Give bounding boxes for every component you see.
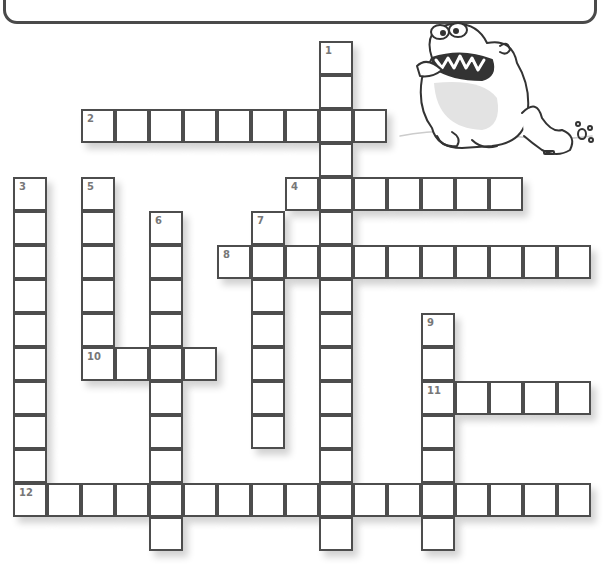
- crossword-cell[interactable]: [13, 313, 47, 347]
- crossword-cell[interactable]: [353, 109, 387, 143]
- crossword-cell[interactable]: [183, 483, 217, 517]
- crossword-cell[interactable]: [285, 483, 319, 517]
- crossword-cell[interactable]: [251, 245, 285, 279]
- crossword-cell[interactable]: [81, 483, 115, 517]
- crossword-cell[interactable]: [523, 483, 557, 517]
- crossword-cell[interactable]: [353, 483, 387, 517]
- crossword-cell[interactable]: [251, 347, 285, 381]
- crossword-cell[interactable]: [149, 245, 183, 279]
- crossword-cell[interactable]: [81, 245, 115, 279]
- crossword-cell[interactable]: [115, 483, 149, 517]
- crossword-cell[interactable]: [13, 245, 47, 279]
- crossword-cell[interactable]: [319, 347, 353, 381]
- crossword-cell[interactable]: [455, 245, 489, 279]
- crossword-cell[interactable]: [81, 211, 115, 245]
- crossword-cell[interactable]: [13, 211, 47, 245]
- crossword-cell[interactable]: [319, 177, 353, 211]
- crossword-cell[interactable]: [353, 177, 387, 211]
- crossword-cell[interactable]: 6: [149, 211, 183, 245]
- crossword-cell[interactable]: [319, 245, 353, 279]
- crossword-cell[interactable]: [387, 245, 421, 279]
- crossword-cell[interactable]: [285, 245, 319, 279]
- crossword-cell[interactable]: [319, 211, 353, 245]
- crossword-cell[interactable]: 10: [81, 347, 115, 381]
- crossword-cell[interactable]: [13, 381, 47, 415]
- crossword-cell[interactable]: [319, 279, 353, 313]
- crossword-cell[interactable]: [251, 313, 285, 347]
- crossword-cell[interactable]: [421, 177, 455, 211]
- crossword-cell[interactable]: [47, 483, 81, 517]
- crossword-cell[interactable]: [149, 381, 183, 415]
- crossword-cell[interactable]: [285, 109, 319, 143]
- crossword-cell[interactable]: [319, 517, 353, 551]
- crossword-cell[interactable]: [489, 245, 523, 279]
- crossword-cell[interactable]: [251, 279, 285, 313]
- crossword-cell[interactable]: [557, 483, 591, 517]
- crossword-cell[interactable]: [489, 381, 523, 415]
- crossword-cell[interactable]: [217, 109, 251, 143]
- crossword-cell[interactable]: [319, 449, 353, 483]
- crossword-cell[interactable]: [523, 381, 557, 415]
- crossword-cell[interactable]: [115, 109, 149, 143]
- crossword-cell[interactable]: [149, 517, 183, 551]
- crossword-cell[interactable]: 11: [421, 381, 455, 415]
- crossword-cell[interactable]: [13, 415, 47, 449]
- crossword-cell[interactable]: [421, 483, 455, 517]
- crossword-cell[interactable]: [319, 313, 353, 347]
- crossword-cell[interactable]: [319, 109, 353, 143]
- crossword-cell[interactable]: [149, 109, 183, 143]
- crossword-cell[interactable]: 12: [13, 483, 47, 517]
- crossword-cell[interactable]: [455, 177, 489, 211]
- crossword-cell[interactable]: [319, 415, 353, 449]
- crossword-cell[interactable]: [489, 177, 523, 211]
- crossword-cell[interactable]: 3: [13, 177, 47, 211]
- clue-number: 8: [223, 249, 230, 260]
- crossword-cell[interactable]: 9: [421, 313, 455, 347]
- crossword-cell[interactable]: [421, 245, 455, 279]
- crossword-cell[interactable]: [149, 483, 183, 517]
- crossword-cell[interactable]: [557, 245, 591, 279]
- crossword-cell[interactable]: [319, 483, 353, 517]
- clue-number: 2: [87, 113, 94, 124]
- crossword-cell[interactable]: [251, 415, 285, 449]
- crossword-cell[interactable]: [489, 483, 523, 517]
- crossword-cell[interactable]: [149, 415, 183, 449]
- crossword-cell[interactable]: [251, 483, 285, 517]
- crossword-cell[interactable]: [149, 279, 183, 313]
- crossword-cell[interactable]: [455, 483, 489, 517]
- crossword-cell[interactable]: [387, 177, 421, 211]
- crossword-cell[interactable]: [183, 347, 217, 381]
- crossword-cell[interactable]: [523, 245, 557, 279]
- crossword-cell[interactable]: [115, 347, 149, 381]
- crossword-cell[interactable]: [81, 279, 115, 313]
- crossword-cell[interactable]: [387, 483, 421, 517]
- crossword-cell[interactable]: [557, 381, 591, 415]
- crossword-cell[interactable]: [319, 381, 353, 415]
- crossword-cell[interactable]: [13, 449, 47, 483]
- crossword-cell[interactable]: [149, 347, 183, 381]
- crossword-cell[interactable]: [13, 347, 47, 381]
- crossword-cell[interactable]: [455, 381, 489, 415]
- crossword-cell[interactable]: [421, 449, 455, 483]
- crossword-cell[interactable]: [81, 313, 115, 347]
- crossword-cell[interactable]: 1: [319, 41, 353, 75]
- crossword-cell[interactable]: [421, 347, 455, 381]
- crossword-cell[interactable]: [421, 415, 455, 449]
- crossword-cell[interactable]: [251, 109, 285, 143]
- crossword-cell[interactable]: 2: [81, 109, 115, 143]
- crossword-cell[interactable]: [353, 245, 387, 279]
- crossword-cell[interactable]: [13, 279, 47, 313]
- crossword-cell[interactable]: [149, 449, 183, 483]
- crossword-cell[interactable]: 5: [81, 177, 115, 211]
- crossword-cell[interactable]: [251, 381, 285, 415]
- crossword-cell[interactable]: 7: [251, 211, 285, 245]
- crossword-cell[interactable]: [217, 483, 251, 517]
- crossword-cell[interactable]: [319, 75, 353, 109]
- crossword-cell[interactable]: [149, 313, 183, 347]
- clue-number: 1: [325, 45, 332, 56]
- crossword-cell[interactable]: [183, 109, 217, 143]
- crossword-cell[interactable]: 8: [217, 245, 251, 279]
- crossword-cell[interactable]: [421, 517, 455, 551]
- crossword-cell[interactable]: 4: [285, 177, 319, 211]
- crossword-cell[interactable]: [319, 143, 353, 177]
